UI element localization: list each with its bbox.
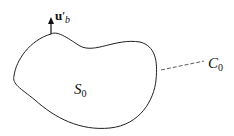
diagram: u′b S0 C0	[0, 0, 234, 136]
diagram-canvas	[0, 0, 234, 136]
vector-label: u′b	[55, 8, 70, 25]
dashed-leader-line	[161, 61, 204, 70]
region-label: S0	[74, 81, 87, 99]
region-label-sub: 0	[82, 88, 87, 99]
vector-label-sub: b	[65, 14, 70, 25]
vector-arrowhead	[48, 17, 54, 24]
curve-label: C0	[208, 55, 223, 73]
curve-label-sub: 0	[218, 62, 223, 73]
curve-label-base: C	[208, 55, 218, 71]
region-label-base: S	[74, 81, 82, 97]
